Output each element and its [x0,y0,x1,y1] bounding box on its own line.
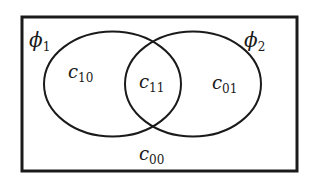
set-label-phi2-main: ϕ [244,28,258,52]
set-label-phi2-sub: 2 [258,40,266,54]
set-label-phi1-main: ϕ [29,28,43,52]
set-label-phi1: ϕ1 [29,30,50,53]
region-label-c00-sub: 00 [149,153,164,167]
region-label-c01-main: c [212,72,222,93]
region-label-c01-sub: 01 [222,82,237,96]
set-label-phi1-sub: 1 [43,40,51,54]
region-label-c11-sub: 11 [149,81,164,95]
region-label-c00-main: c [139,143,149,164]
region-label-c11: c11 [139,73,164,94]
region-label-c10-sub: 10 [78,71,93,85]
region-label-c11-main: c [139,71,149,92]
region-label-c01: c01 [212,74,237,95]
region-label-c10-main: c [68,61,78,82]
region-label-c10: c10 [68,63,93,84]
region-label-c00: c00 [139,145,164,166]
set-label-phi2: ϕ2 [244,30,265,53]
